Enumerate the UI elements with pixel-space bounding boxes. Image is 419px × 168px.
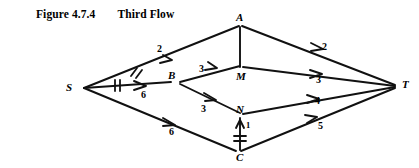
edge-label-b-n: 3 <box>201 104 206 114</box>
edge-label-n-t: 4 <box>315 96 320 106</box>
node-label-n: N <box>236 104 244 115</box>
node-label-t: T <box>402 79 409 90</box>
edge-label-s-b: 6 <box>141 90 146 100</box>
arrowhead-b-m <box>205 62 217 70</box>
edge-label-c-n: 1 <box>246 121 250 130</box>
node-label-b: B <box>168 70 175 81</box>
node-label-a: A <box>236 12 243 23</box>
node-label-m: M <box>236 71 246 82</box>
edge-label-s-a: 2 <box>157 44 162 54</box>
edge-label-s-c: 6 <box>169 127 174 137</box>
figure-page: Figure 4.7.4Third Flow <box>0 0 419 168</box>
edge-label-c-t: 5 <box>318 121 323 131</box>
edge-label-a-t: 2 <box>322 42 327 52</box>
edge-label-b-m: 3 <box>199 64 204 74</box>
edge-line-s-a <box>84 26 239 88</box>
node-label-s: S <box>66 82 72 93</box>
node-label-c: C <box>236 152 243 163</box>
flow-network-diagram <box>0 0 419 168</box>
edge-label-m-t: 3 <box>316 75 321 85</box>
edge-line-b-n <box>180 84 240 113</box>
